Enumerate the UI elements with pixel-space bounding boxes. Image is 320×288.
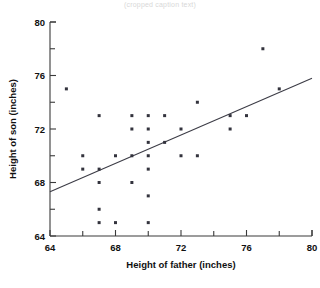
data-point <box>180 154 183 157</box>
data-point <box>147 221 150 224</box>
data-point <box>245 114 248 117</box>
data-point <box>229 128 232 131</box>
data-point <box>98 208 101 211</box>
x-tick-label: 68 <box>110 242 121 253</box>
y-tick-label: 80 <box>34 17 45 28</box>
data-point <box>163 114 166 117</box>
data-point <box>130 154 133 157</box>
y-axis-tick-labels: 6468727680 <box>34 17 45 242</box>
data-point <box>147 114 150 117</box>
data-point <box>130 181 133 184</box>
data-point <box>147 154 150 157</box>
y-axis-ticks <box>50 22 56 236</box>
x-tick-label: 80 <box>307 242 318 253</box>
x-tick-label: 76 <box>241 242 252 253</box>
data-point <box>147 128 150 131</box>
data-point <box>114 221 117 224</box>
data-point <box>98 221 101 224</box>
data-point <box>98 114 101 117</box>
y-tick-label: 72 <box>34 124 45 135</box>
regression-line <box>50 78 312 192</box>
data-point <box>147 194 150 197</box>
data-point <box>81 168 84 171</box>
data-point <box>163 141 166 144</box>
data-point <box>98 181 101 184</box>
x-axis-tick-labels: 6468727680 <box>45 242 318 253</box>
data-point <box>147 141 150 144</box>
y-tick-label: 68 <box>34 177 45 188</box>
data-point <box>229 114 232 117</box>
chart-figure: (cropped caption text) 6468727680 646872… <box>0 0 320 288</box>
x-tick-label: 64 <box>45 242 56 253</box>
scatter-plot: 6468727680 6468727680 Height of father (… <box>0 0 320 288</box>
data-point <box>130 114 133 117</box>
data-point <box>180 128 183 131</box>
data-point <box>98 168 101 171</box>
data-point <box>196 101 199 104</box>
data-point <box>65 87 68 90</box>
data-point <box>81 154 84 157</box>
y-tick-label: 76 <box>34 70 45 81</box>
data-point <box>114 154 117 157</box>
y-tick-label: 64 <box>34 231 45 242</box>
x-axis-ticks <box>50 230 312 236</box>
data-point <box>261 47 264 50</box>
regression-line-segment <box>50 78 312 192</box>
data-point <box>147 168 150 171</box>
x-axis-title: Height of father (inches) <box>126 259 235 270</box>
data-point <box>130 128 133 131</box>
y-axis-title: Height of son (inches) <box>7 79 18 179</box>
data-point <box>278 87 281 90</box>
x-tick-label: 72 <box>176 242 187 253</box>
data-points <box>65 47 281 224</box>
data-point <box>196 154 199 157</box>
